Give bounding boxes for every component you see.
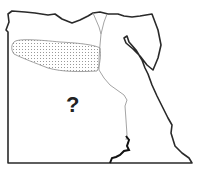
question-mark-label: ?	[66, 92, 79, 118]
egypt-map	[0, 0, 197, 171]
nile-river	[93, 13, 127, 140]
lake-nasser	[110, 136, 129, 163]
country-border	[6, 11, 192, 163]
highlighted-region	[12, 40, 101, 72]
